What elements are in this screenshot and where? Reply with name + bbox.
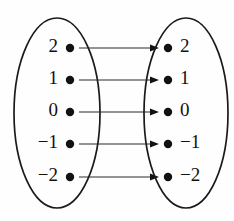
element-dot (164, 108, 172, 116)
element-label: 2 (180, 35, 190, 56)
element-label: 1 (49, 67, 59, 88)
element-dot (164, 76, 172, 84)
mapping-arrow-head-icon (150, 140, 159, 147)
domain-nodes: 210−1−2 (38, 35, 74, 185)
element-dot (66, 76, 74, 84)
element-label: −2 (38, 164, 58, 185)
element-dot (164, 44, 172, 52)
element-label: 0 (49, 99, 59, 120)
codomain-set-group: 210−1−2 (144, 18, 228, 208)
element-dot (66, 173, 74, 181)
mapping-arrows-group (79, 44, 159, 180)
element-label: 1 (180, 67, 190, 88)
mapping-diagram: 210−1−2 210−1−2 (0, 0, 234, 221)
element-dot (66, 44, 74, 52)
element-label: −1 (180, 131, 200, 152)
element-label: 2 (49, 35, 59, 56)
mapping-diagram-canvas: 210−1−2 210−1−2 (0, 0, 234, 221)
element-dot (66, 140, 74, 148)
element-label: −1 (38, 131, 58, 152)
mapping-arrow-head-icon (150, 108, 159, 115)
element-label: −2 (180, 164, 200, 185)
domain-set-group: 210−1−2 (14, 18, 100, 208)
element-label: 0 (180, 99, 190, 120)
element-dot (164, 173, 172, 181)
element-dot (164, 140, 172, 148)
element-dot (66, 108, 74, 116)
mapping-arrow-head-icon (150, 76, 159, 83)
codomain-nodes: 210−1−2 (164, 35, 200, 185)
